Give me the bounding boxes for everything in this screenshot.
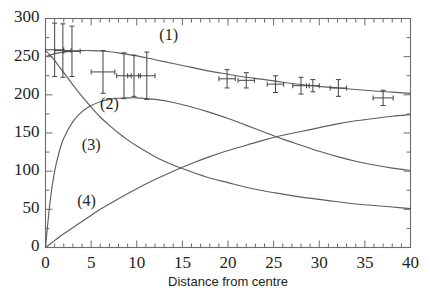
data-point-error-bar [55,24,71,77]
x-axis-title: Distance from centre [168,274,288,289]
x-tick-label: 5 [87,253,96,272]
data-point-error-bar [306,80,319,92]
x-axis-ticks [46,19,411,248]
data-point-error-bar [219,70,235,88]
chart-figure: 0510152025303540 050100150200250300 (1)(… [0,0,430,295]
y-tick-label: 100 [14,160,40,179]
curve-label-4: (4) [77,192,96,210]
curve-annotation-group: (1)(2)(3)(4) [77,26,178,210]
curve-label-3: (3) [82,136,101,154]
curve-label-2: (2) [100,95,119,113]
y-tick-label: 0 [31,236,40,255]
plot-frame [46,19,411,248]
data-point-error-bar [64,26,80,76]
curve-label-1: (1) [159,26,178,44]
x-tick-label: 30 [311,253,328,272]
x-tick-label: 25 [265,253,282,272]
error-bar-group [46,23,394,105]
y-tick-label: 300 [14,7,40,26]
x-tick-label: 15 [174,253,191,272]
data-point-error-bar [267,76,283,93]
data-point-error-bar [330,80,346,97]
x-tick-label: 20 [220,253,237,272]
y-tick-label-group: 050100150200250300 [14,7,40,255]
x-tick-label: 35 [356,253,373,272]
scatter-line-plot: 0510152025303540 050100150200250300 (1)(… [0,0,430,295]
plot-border [46,19,411,248]
data-point-error-bar [238,73,254,88]
y-tick-label: 50 [23,198,40,217]
x-tick-label: 40 [402,253,419,272]
curve-4 [46,115,411,248]
y-tick-label: 250 [14,46,40,65]
y-tick-label: 150 [14,122,40,141]
x-tick-label: 0 [41,253,50,272]
x-tick-label-group: 0510152025303540 [41,253,419,272]
y-axis-ticks [46,19,411,248]
y-tick-label: 200 [14,84,40,103]
data-point-error-bar [91,51,115,94]
x-tick-label: 10 [128,253,145,272]
